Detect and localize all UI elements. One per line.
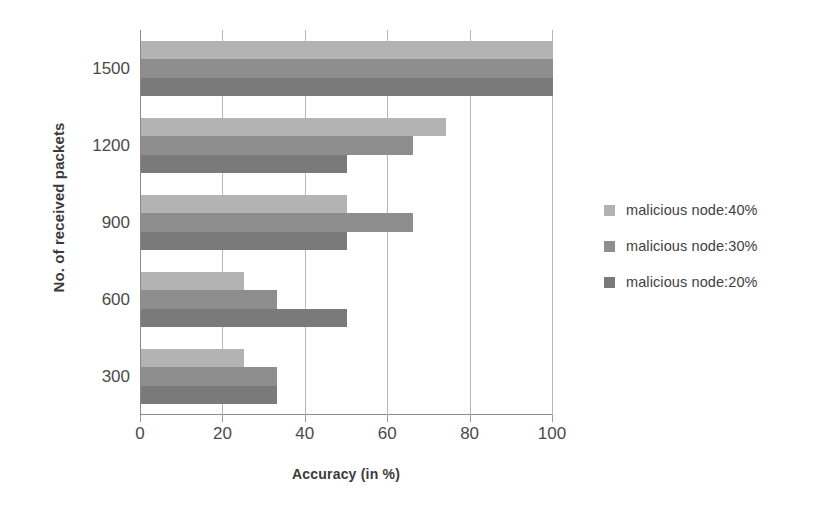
legend-item[interactable]: malicious node:20% bbox=[604, 264, 819, 300]
legend-swatch-icon bbox=[604, 241, 615, 252]
bar-group bbox=[141, 349, 553, 404]
x-axis-tick-label: 60 bbox=[378, 424, 397, 444]
bar bbox=[141, 41, 553, 59]
legend-item[interactable]: malicious node:40% bbox=[604, 192, 819, 228]
x-axis-tick bbox=[387, 415, 388, 422]
bar bbox=[141, 195, 347, 213]
bar-group bbox=[141, 41, 553, 96]
bar bbox=[141, 232, 347, 250]
x-axis-line bbox=[140, 414, 553, 415]
bar bbox=[141, 78, 553, 96]
bar bbox=[141, 118, 446, 136]
chart-legend: malicious node:40%malicious node:30%mali… bbox=[604, 192, 819, 300]
bar bbox=[141, 272, 244, 290]
bar bbox=[141, 349, 244, 367]
bar bbox=[141, 290, 277, 308]
legend-label: malicious node:20% bbox=[626, 274, 758, 290]
bar bbox=[141, 367, 277, 385]
bar bbox=[141, 136, 413, 154]
y-axis-tick-label: 300 bbox=[102, 367, 130, 387]
legend-label: malicious node:40% bbox=[626, 202, 758, 218]
bar bbox=[141, 155, 347, 173]
plot-area bbox=[140, 30, 552, 415]
x-axis-title: Accuracy (in %) bbox=[140, 466, 552, 482]
x-axis-tick bbox=[305, 415, 306, 422]
y-axis-tick-label: 600 bbox=[102, 290, 130, 310]
x-axis-tick bbox=[470, 415, 471, 422]
bar-group bbox=[141, 272, 553, 327]
legend-swatch-icon bbox=[604, 205, 615, 216]
bar-group bbox=[141, 195, 553, 250]
y-axis-tick-labels: 30060090012001500 bbox=[55, 30, 130, 415]
bar bbox=[141, 386, 277, 404]
x-axis-tick-label: 100 bbox=[538, 424, 566, 444]
x-axis-tick bbox=[552, 415, 553, 422]
y-axis-tick-label: 900 bbox=[102, 213, 130, 233]
bar bbox=[141, 309, 347, 327]
x-axis-tick bbox=[140, 415, 141, 422]
legend-label: malicious node:30% bbox=[626, 238, 758, 254]
legend-swatch-icon bbox=[604, 277, 615, 288]
bar bbox=[141, 213, 413, 231]
x-axis-tick-label: 0 bbox=[135, 424, 144, 444]
x-axis-tick bbox=[222, 415, 223, 422]
bar bbox=[141, 59, 553, 77]
y-axis-tick-label: 1500 bbox=[92, 59, 130, 79]
x-axis-tick-label: 20 bbox=[213, 424, 232, 444]
legend-item[interactable]: malicious node:30% bbox=[604, 228, 819, 264]
x-axis-tick-label: 80 bbox=[460, 424, 479, 444]
y-axis-tick-label: 1200 bbox=[92, 136, 130, 156]
bar-group bbox=[141, 118, 553, 173]
chart-figure: No. of received packets 3006009001200150… bbox=[0, 0, 833, 516]
x-axis-tick-label: 40 bbox=[295, 424, 314, 444]
